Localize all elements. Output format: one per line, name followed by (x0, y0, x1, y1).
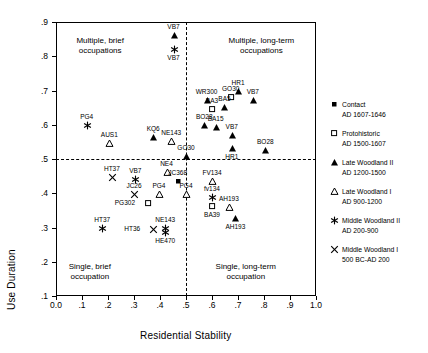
data-point-label: GO30 (177, 144, 194, 151)
legend-item-3[interactable]: Late Woodland IAD 900-1200 (330, 187, 426, 207)
data-point-label: JC368 (168, 169, 187, 176)
legend-item-0[interactable]: ContactAD 1607-1646 (330, 100, 426, 120)
marker-open-triangle-icon (182, 190, 190, 198)
legend-text-block: ProtohistoricAD 1500-1607 (342, 129, 386, 149)
marker-filled-triangle-icon (149, 133, 157, 141)
legend: ContactAD 1607-1646ProtohistoricAD 1500-… (330, 100, 426, 274)
legend-marker-filled-triangle-icon (330, 158, 342, 168)
legend-marker-asterisk-icon (330, 216, 342, 226)
legend-sublabel: 500 BC-AD 200 (342, 255, 398, 265)
marker-filled-triangle-icon (170, 31, 178, 39)
marker-cross-icon (108, 173, 116, 181)
quadrant-label-line: occupations (228, 46, 294, 56)
y-tick-mark (52, 193, 56, 194)
data-point-label: fv134 (204, 185, 220, 192)
legend-sublabel: AD 1500-1607 (342, 139, 386, 149)
y-tick-label: .8 (22, 51, 48, 61)
marker-filled-triangle-icon (234, 87, 242, 95)
x-tick-label: .1 (69, 300, 95, 310)
data-point-label: AUS1 (101, 131, 118, 138)
data-point-label: VB7 (167, 23, 179, 30)
marker-open-square-icon (144, 199, 152, 207)
legend-item-5[interactable]: Middle Woodland I500 BC-AD 200 (330, 245, 426, 265)
marker-filled-triangle-icon (212, 123, 220, 131)
marker-open-square-icon (208, 202, 216, 210)
marker-filled-triangle-icon (231, 214, 239, 222)
y-tick-mark (52, 91, 56, 92)
y-tick-mark (52, 228, 56, 229)
legend-item-4[interactable]: Middle Woodland IIAD 200-900 (330, 216, 426, 236)
legend-label: Middle Woodland I (342, 245, 398, 255)
data-point-label: PG4 (80, 113, 93, 120)
data-point-label: VB7 (247, 88, 259, 95)
y-tick-label: .2 (22, 257, 48, 267)
legend-item-1[interactable]: ProtohistoricAD 1500-1607 (330, 129, 426, 149)
legend-label: Middle Woodland II (342, 216, 400, 226)
y-tick-label: .6 (22, 120, 48, 130)
y-tick-mark (52, 125, 56, 126)
data-point-label: KQ6 (147, 125, 160, 132)
quadrant-label-line: Single, brief (69, 262, 111, 272)
y-tick-mark (52, 22, 56, 23)
data-point-label: HE470 (155, 237, 175, 244)
x-tick-label: .2 (95, 300, 121, 310)
x-tick-label: .5 (173, 300, 199, 310)
marker-open-triangle-icon (105, 139, 113, 147)
y-tick-label: .5 (22, 154, 48, 164)
marker-filled-triangle-icon (220, 103, 228, 111)
data-point-label: HT37 (94, 216, 110, 223)
data-point-label: BA15 (208, 115, 224, 122)
legend-text-block: Late Woodland IAD 900-1200 (342, 187, 391, 207)
y-axis-label: Use Duration (6, 249, 17, 310)
marker-filled-triangle-icon (249, 96, 257, 104)
quadrant-label-line: Multiple, long-term (228, 36, 294, 46)
legend-label: Contact (342, 100, 386, 110)
data-point-label: AH193 (225, 223, 245, 230)
legend-marker-open-triangle-icon (330, 187, 342, 197)
y-tick-label: .4 (22, 188, 48, 198)
quadrant-label-line: Multiple, brief (76, 36, 124, 46)
y-tick-mark (52, 56, 56, 57)
quadrant-label-line: Single, long-term (216, 262, 276, 272)
data-point-label: PG302 (115, 199, 135, 206)
marker-filled-triangle-icon (182, 152, 190, 160)
x-tick-label: .3 (121, 300, 147, 310)
data-point-label: HR1 (231, 79, 244, 86)
data-point-label: HR1 (225, 153, 238, 160)
legend-text-block: Middle Woodland I500 BC-AD 200 (342, 245, 398, 265)
x-tick-label: 0.0 (43, 300, 69, 310)
quadrant-label-upper-right: Multiple, long-termoccupations (228, 36, 294, 56)
marker-asterisk-icon (161, 228, 169, 236)
y-tick-label: .9 (22, 17, 48, 27)
marker-asterisk-icon (208, 193, 216, 201)
data-point-label: BA39 (204, 211, 220, 218)
data-point-label: VB7 (226, 123, 238, 130)
x-tick-label: .9 (277, 300, 303, 310)
data-point-label: PG4 (152, 182, 165, 189)
quadrant-label-lower-right: Single, long-termoccupation (216, 262, 276, 282)
legend-sublabel: AD 1607-1646 (342, 110, 386, 120)
marker-asterisk-icon (98, 224, 106, 232)
quadrant-label-line: occupation (216, 272, 276, 282)
marker-cross-icon (130, 190, 138, 198)
data-point-label: BA3 (206, 97, 218, 104)
data-point-label: FV134 (202, 169, 221, 176)
legend-marker-filled-square-icon (330, 100, 342, 110)
legend-text-block: Late Woodland IIAD 1200-1500 (342, 158, 393, 178)
marker-asterisk-icon (170, 45, 178, 53)
data-point-label: HT36 (124, 225, 140, 232)
legend-sublabel: AD 200-900 (342, 226, 400, 236)
data-point-label: PG4 (179, 182, 192, 189)
x-tick-label: 1.0 (303, 300, 329, 310)
legend-item-2[interactable]: Late Woodland IIAD 1200-1500 (330, 158, 426, 178)
legend-marker-cross-icon (330, 245, 342, 255)
y-tick-mark (52, 262, 56, 263)
scatter-plot: Use Duration Residential Stability .1.2.… (0, 0, 428, 353)
legend-sublabel: AD 1200-1500 (342, 168, 393, 178)
quadrant-label-line: occupations (76, 46, 124, 56)
data-point-label: BA5 (218, 95, 230, 102)
data-point-label: AH193 (219, 195, 239, 202)
data-point-label: WR300 (196, 88, 218, 95)
x-tick-label: .8 (251, 300, 277, 310)
legend-text-block: Middle Woodland IIAD 200-900 (342, 216, 400, 236)
